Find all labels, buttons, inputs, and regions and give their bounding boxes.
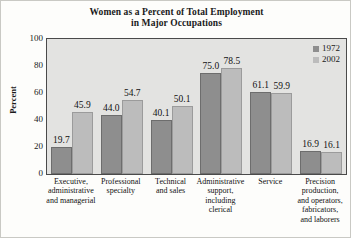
chart-title: Women as a Percent of Total Employment i… <box>1 7 351 29</box>
bar-1972-1[interactable]: 44.0 <box>101 115 122 174</box>
x-tick-label-line: including <box>192 196 250 205</box>
legend-label: 2002 <box>322 54 340 65</box>
x-tick-label-line: production, <box>291 186 349 195</box>
bar-value-label: 44.0 <box>103 103 120 113</box>
chart-title-line-2: in Major Occupations <box>1 18 351 29</box>
y-tick-label: 100 <box>17 34 43 43</box>
x-tick-label-line: and laborers <box>291 215 349 224</box>
bar-value-label: 16.1 <box>323 140 340 150</box>
bar-group: 40.150.1 <box>147 39 197 174</box>
bar-value-label: 16.9 <box>302 139 319 149</box>
bar-value-label: 75.0 <box>203 61 220 71</box>
chart-figure: Women as a Percent of Total Employment i… <box>0 0 351 238</box>
bar-1972-0[interactable]: 19.7 <box>51 147 72 174</box>
bar-value-label: 50.1 <box>174 94 191 104</box>
bar-2002-3[interactable]: 78.5 <box>221 68 242 174</box>
legend-label: 1972 <box>322 43 340 54</box>
bar-value-label: 61.1 <box>252 80 269 90</box>
bar-value-label: 19.7 <box>53 135 70 145</box>
bar-1972-5[interactable]: 16.9 <box>300 151 321 174</box>
bar-2002-5[interactable]: 16.1 <box>321 152 342 174</box>
bar-value-label: 54.7 <box>124 88 141 98</box>
bar-value-label: 59.9 <box>273 81 290 91</box>
legend-swatch-icon <box>313 57 319 63</box>
x-tick-label-line: clerical <box>192 205 250 214</box>
x-tick-label-line: fabricators, <box>291 205 349 214</box>
x-tick-label-line: Precision <box>291 177 349 186</box>
y-tick-label: 40 <box>17 115 43 124</box>
x-tick-label-line: support, <box>192 186 250 195</box>
legend-item-2002[interactable]: 2002 <box>313 54 340 65</box>
y-tick-label: 0 <box>17 169 43 178</box>
bar-2002-4[interactable]: 59.9 <box>271 93 292 174</box>
bar-1972-4[interactable]: 61.1 <box>250 92 271 174</box>
bar-value-label: 78.5 <box>224 56 241 66</box>
bar-group: 44.054.7 <box>97 39 147 174</box>
plot-area: 19.745.944.054.740.150.175.078.561.159.9… <box>46 38 347 175</box>
chart-title-line-1: Women as a Percent of Total Employment <box>1 7 351 18</box>
bar-2002-0[interactable]: 45.9 <box>72 112 93 174</box>
x-axis-labels: Executive,administrativeand managerialPr… <box>46 177 347 237</box>
y-tick-label: 60 <box>17 88 43 97</box>
bar-2002-2[interactable]: 50.1 <box>172 106 193 174</box>
bar-value-label: 40.1 <box>153 108 170 118</box>
y-tick-label: 20 <box>17 142 43 151</box>
x-tick-label: Precisionproduction,and operators,fabric… <box>291 177 349 224</box>
bar-group: 75.078.5 <box>197 39 247 174</box>
bar-2002-1[interactable]: 54.7 <box>122 100 143 174</box>
bar-1972-3[interactable]: 75.0 <box>200 73 221 174</box>
y-tick-label: 80 <box>17 61 43 70</box>
bar-group: 19.745.9 <box>47 39 97 174</box>
bar-value-label: 45.9 <box>74 100 91 110</box>
legend-swatch-icon <box>313 46 319 52</box>
legend: 19722002 <box>313 43 340 65</box>
bar-group: 61.159.9 <box>246 39 296 174</box>
bars-container: 19.745.944.054.740.150.175.078.561.159.9… <box>47 39 346 174</box>
bar-1972-2[interactable]: 40.1 <box>151 120 172 174</box>
x-tick-label-line: and managerial <box>42 196 100 205</box>
y-axis-ticks: 100806040200 <box>15 1 43 238</box>
x-tick-label-line: and operators, <box>291 196 349 205</box>
legend-item-1972[interactable]: 1972 <box>313 43 340 54</box>
